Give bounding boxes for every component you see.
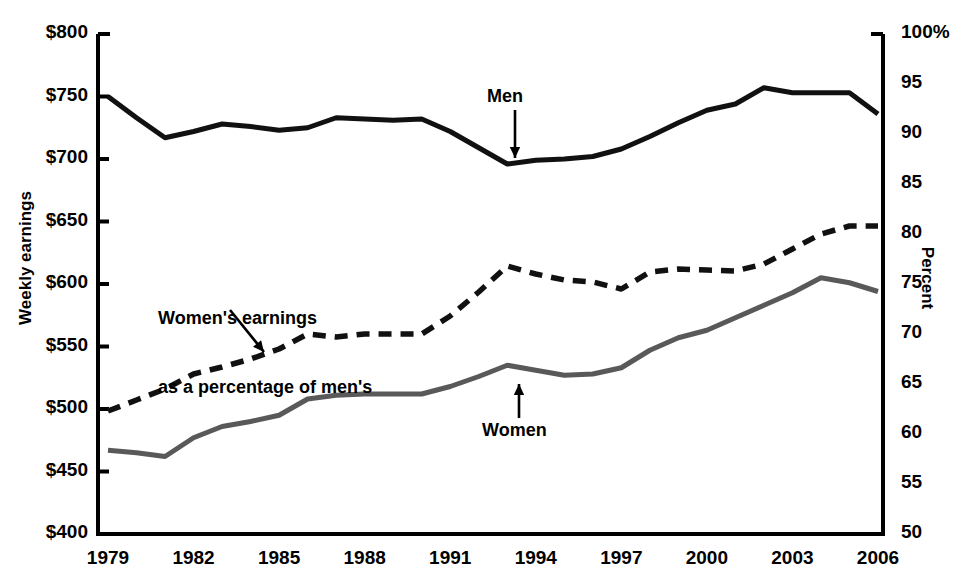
- x-axis-tick-label: 1985: [244, 547, 314, 569]
- annotation-percent-line1: Women's earnings: [158, 307, 372, 330]
- y-axis-left-tick-label: $400: [2, 521, 88, 543]
- y-axis-right-tick-label: 55: [901, 471, 922, 493]
- annotation-women-label: Women: [482, 419, 547, 442]
- arrow-men: [510, 110, 520, 158]
- y-axis-left-tick-label: $800: [2, 21, 88, 43]
- y-axis-right-tick-label: 60: [901, 421, 922, 443]
- annotation-percent-label: Women's earnings as a percentage of men'…: [158, 261, 372, 445]
- arrow-women: [514, 384, 524, 418]
- x-axis-tick-label: 1982: [159, 547, 229, 569]
- chart-container: Weekly earnings Percent $800$750$700$650…: [0, 0, 957, 580]
- y-axis-left-tick-label: $750: [2, 84, 88, 106]
- y-axis-left-tick-label: $550: [2, 334, 88, 356]
- y-axis-right-tick-label: 75: [901, 271, 922, 293]
- annotation-men-label: Men: [487, 85, 523, 108]
- y-axis-right-tick-label: 100%: [901, 21, 950, 43]
- x-axis-tick-label: 1994: [501, 547, 571, 569]
- x-axis-tick-label: 1997: [586, 547, 656, 569]
- y-axis-right-tick-label: 95: [901, 71, 922, 93]
- y-axis-left-tick-label: $650: [2, 209, 88, 231]
- x-axis-tick-label: 1988: [330, 547, 400, 569]
- y-axis-right-tick-label: 70: [901, 321, 922, 343]
- y-axis-right-tick-label: 80: [901, 221, 922, 243]
- y-axis-left-tick-label: $600: [2, 271, 88, 293]
- x-axis-tick-label: 1991: [415, 547, 485, 569]
- y-axis-right-tick-label: 90: [901, 121, 922, 143]
- x-axis-tick-label: 2006: [843, 547, 913, 569]
- x-axis-tick-label: 1979: [73, 547, 143, 569]
- x-axis-tick-label: 2003: [757, 547, 827, 569]
- y-axis-right-tick-label: 50: [901, 521, 922, 543]
- line-chart-plot: [0, 0, 957, 580]
- x-axis-tick-label: 2000: [672, 547, 742, 569]
- y-axis-right-tick-label: 65: [901, 371, 922, 393]
- y-axis-left-tick-label: $450: [2, 459, 88, 481]
- y-axis-right-tick-label: 85: [901, 171, 922, 193]
- y-axis-left-tick-label: $500: [2, 396, 88, 418]
- y-axis-left-tick-label: $700: [2, 146, 88, 168]
- annotation-percent-line2: as a percentage of men's: [158, 376, 372, 399]
